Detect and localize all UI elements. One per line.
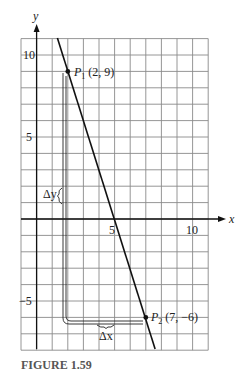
delta-y-label: Δy [43,187,57,201]
point-p1 [65,69,70,74]
x-axis-arrow-icon [218,216,226,222]
delta-x-label: Δx [99,329,113,343]
delta-x-brace-icon [97,325,114,329]
y-tick-5: 5 [26,130,32,144]
point-p1-label: P1 (2, 9) [73,65,114,81]
y-axis-label: y [32,9,39,23]
x-axis-label: x [228,212,235,226]
x-tick-5: 5 [109,223,115,237]
y-axis-arrow-icon [34,24,40,32]
delta-bracket [63,73,143,324]
point-p2 [143,315,148,320]
coordinate-plot: x y 5 10 10 5 −5 Δy Δx P1 (2, 9) P2 (7, … [0,0,243,372]
y-tick-neg5: −5 [19,294,32,308]
figure-caption: FIGURE 1.59 [21,358,92,372]
delta-y-brace-icon [58,188,63,204]
line-p1-p2 [57,38,155,349]
y-tick-10: 10 [23,48,35,62]
x-tick-10: 10 [186,223,198,237]
point-p2-label: P2 (7, −6) [150,310,198,326]
